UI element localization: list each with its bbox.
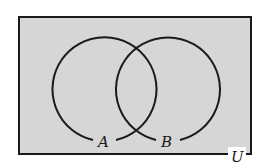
universe-rectangle [19, 17, 251, 154]
set-a-label: A [96, 133, 109, 151]
universe-label: U [231, 148, 245, 164]
venn-diagram: A B U [0, 0, 258, 164]
set-b-label: B [160, 133, 172, 151]
